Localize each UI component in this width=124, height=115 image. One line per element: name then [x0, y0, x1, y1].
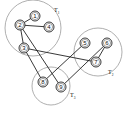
- node-8: 8: [38, 77, 48, 87]
- cluster-label-t2: T2: [108, 69, 114, 77]
- edge-3-8: [24, 48, 43, 82]
- cluster-label-t3: T3: [70, 92, 76, 100]
- graph-canvas: 123456789 T1T2T3: [0, 0, 124, 115]
- cluster-label-t1: T1: [54, 7, 60, 15]
- node-2: 2: [15, 20, 25, 30]
- node-1: 1: [30, 11, 40, 21]
- edge-5-8: [43, 43, 85, 82]
- node-layer: 123456789: [15, 11, 112, 92]
- node-6: 6: [102, 38, 112, 48]
- edge-layer: [20, 16, 107, 87]
- node-7: 7: [91, 57, 101, 67]
- node-5: 5: [80, 38, 90, 48]
- node-9: 9: [56, 82, 66, 92]
- node-3: 3: [19, 43, 29, 53]
- node-4: 4: [44, 22, 54, 32]
- edge-3-7: [24, 48, 96, 62]
